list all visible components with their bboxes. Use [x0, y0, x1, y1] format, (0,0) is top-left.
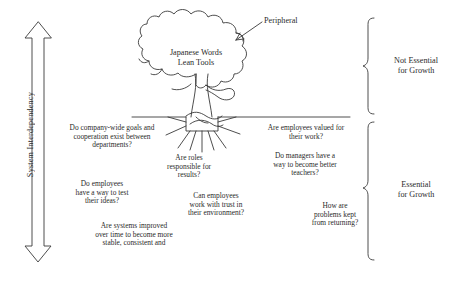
bracket-not-essential: [363, 18, 374, 114]
question-line: their ideas?: [54, 197, 150, 206]
peripheral-label: Peripheral: [264, 16, 324, 26]
diagram-canvas: System Interdependency Japanese Words Le…: [0, 0, 457, 284]
peripheral-callout-line: [236, 22, 262, 40]
bracket-essential: [363, 122, 374, 260]
question-line: stable, consistent and: [62, 239, 206, 248]
bracket-not-essential-line-1: Not Essential: [381, 56, 451, 66]
bracket-not-essential-line-2: for Growth: [381, 66, 451, 76]
tree-branches: [172, 84, 235, 100]
question-line: results?: [146, 171, 232, 180]
bracket-essential-line-2: for Growth: [381, 190, 451, 200]
system-interdependency-label: System Interdependency: [26, 92, 35, 177]
root-question-employees-valued: Are employees valued for their work?: [250, 124, 362, 141]
root-question-company-wide-goals: Do company-wide goals and cooperation ex…: [48, 124, 176, 150]
canopy-label-line-2: Lean Tools: [150, 58, 242, 68]
root-question-problems-returning: How are problems kept from returning?: [294, 202, 376, 228]
canopy-label-line-1: Japanese Words: [150, 48, 242, 58]
canopy-label: Japanese Words Lean Tools: [150, 48, 242, 67]
root-question-roles-responsible: Are roles responsible for results?: [146, 154, 232, 180]
root-question-managers-teachers: Do managers have a way to become better …: [254, 152, 356, 178]
question-line: their environment?: [164, 209, 268, 218]
question-line: their work?: [250, 133, 362, 142]
root-question-systems-improved: Are systems improved over time to become…: [62, 222, 206, 248]
bracket-label-not-essential: Not Essential for Growth: [381, 56, 451, 77]
question-line: from returning?: [294, 219, 376, 228]
bracket-essential-line-1: Essential: [381, 180, 451, 190]
bracket-label-essential: Essential for Growth: [381, 180, 451, 201]
question-line: departments?: [48, 141, 176, 150]
tree-trunk: [191, 74, 212, 117]
question-line: teachers?: [254, 169, 356, 178]
root-question-test-ideas: Do employees have a way to test their id…: [54, 180, 150, 206]
root-question-work-with-trust: Can employees work with trust in their e…: [164, 192, 268, 218]
